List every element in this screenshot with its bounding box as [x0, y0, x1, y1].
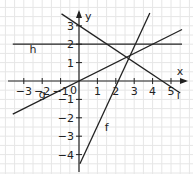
origin-label: 0	[70, 84, 77, 97]
y-tick-label: 2	[67, 38, 74, 51]
y-tick-label: −2	[58, 112, 74, 125]
x-tick-label: 1	[94, 85, 101, 98]
y-tick-label: 3	[67, 20, 74, 33]
x-tick-label: 5	[168, 85, 175, 98]
x-axis-label: x	[177, 65, 184, 78]
x-tick-label: 4	[149, 85, 156, 98]
x-tick-label: −3	[16, 85, 32, 98]
line-label-g: g	[39, 88, 46, 101]
coordinate-plot: −3−2−112345−4−3−2−11230xyhfgi	[0, 0, 193, 174]
y-axis-label: y	[85, 10, 92, 23]
y-tick-label: 1	[67, 57, 74, 70]
x-axis-arrow-icon	[180, 78, 188, 84]
line-label-i: i	[177, 89, 180, 102]
plot-svg: −3−2−112345−4−3−2−11230xyhfgi	[0, 0, 193, 174]
x-tick-label: 3	[131, 85, 138, 98]
labels: −3−2−112345−4−3−2−11230xyhfgi	[16, 10, 184, 162]
y-tick-label: −3	[58, 130, 74, 143]
x-tick-label: 2	[112, 85, 119, 98]
line-label-h: h	[30, 43, 37, 56]
y-axis-arrow-icon	[76, 10, 82, 18]
y-tick-label: −4	[58, 149, 74, 162]
